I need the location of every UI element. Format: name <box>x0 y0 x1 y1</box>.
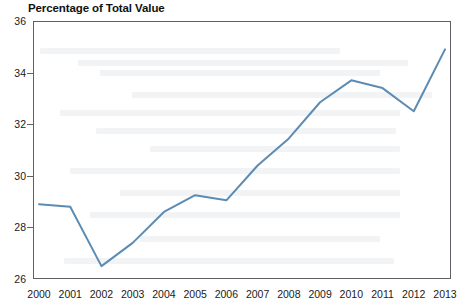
series-polyline <box>39 49 445 266</box>
x-tick-label-2000: 2000 <box>27 288 50 300</box>
x-tick-label-2009: 2009 <box>308 288 331 300</box>
y-tick-label-30: 30 <box>14 170 26 182</box>
y-tick-label-36: 36 <box>14 15 26 27</box>
line-chart: Percentage of Total Value 262830323436 2… <box>0 0 459 308</box>
x-tick-label-2011: 2011 <box>371 288 394 300</box>
x-tick-label-2008: 2008 <box>277 288 300 300</box>
x-tick-label-2010: 2010 <box>340 288 363 300</box>
x-tick-label-2007: 2007 <box>246 288 269 300</box>
x-tick-label-2012: 2012 <box>402 288 425 300</box>
x-tick-label-2002: 2002 <box>90 288 113 300</box>
y-tick-label-26: 26 <box>14 273 26 285</box>
series-line <box>33 21 451 279</box>
x-tick-label-2004: 2004 <box>152 288 175 300</box>
chart-title: Percentage of Total Value <box>28 2 165 14</box>
x-tick-label-2013: 2013 <box>433 288 456 300</box>
y-tick-label-32: 32 <box>14 118 26 130</box>
x-tick-label-2001: 2001 <box>59 288 82 300</box>
x-tick-label-2006: 2006 <box>215 288 238 300</box>
x-tick-label-2003: 2003 <box>121 288 144 300</box>
x-tick-label-2005: 2005 <box>183 288 206 300</box>
y-tick-label-34: 34 <box>14 67 26 79</box>
y-axis: 262830323436 <box>0 0 33 308</box>
x-axis: 2000200120022003200420052006200720082009… <box>0 288 459 308</box>
y-tick-label-28: 28 <box>14 221 26 233</box>
